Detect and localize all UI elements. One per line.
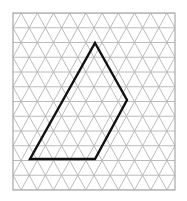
- grid-line: [0, 13, 5, 190]
- triangle-grid: [0, 13, 187, 190]
- grid-line: [183, 13, 187, 190]
- triangle-grid-diagram: [0, 0, 187, 201]
- grid-line: [0, 13, 5, 190]
- grid-line: [183, 13, 187, 190]
